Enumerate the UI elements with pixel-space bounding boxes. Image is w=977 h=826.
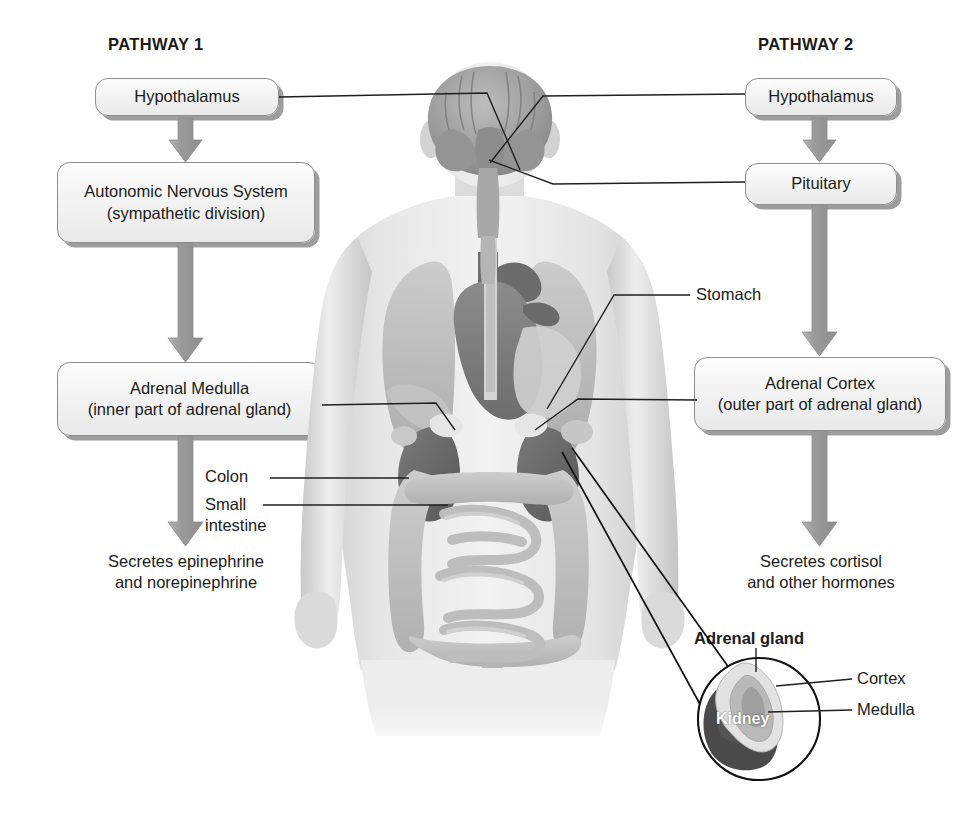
- leader-hypothalamus-left: [279, 93, 520, 170]
- leader-hypothalamus-right: [490, 94, 745, 163]
- pathway1-arrows: [168, 118, 203, 546]
- figure-canvas: PATHWAY 1 Hypothalamus Autonomic Nervous…: [0, 0, 977, 826]
- leader-stomach: [547, 295, 690, 409]
- leader-adrenal-cortex: [535, 399, 697, 430]
- leader-adrenal-medulla: [322, 403, 455, 430]
- pathway2-arrows: [802, 118, 837, 546]
- label-kidney: Kidney: [716, 710, 769, 728]
- leader-pituitary: [489, 160, 745, 184]
- arrow-l2: [168, 243, 203, 362]
- connector-layer: [0, 0, 977, 826]
- arrow-l1: [169, 118, 202, 162]
- arrow-r1: [803, 118, 836, 162]
- arrow-r2: [802, 205, 837, 356]
- arrow-r3: [802, 431, 837, 546]
- arrow-l3: [168, 436, 203, 546]
